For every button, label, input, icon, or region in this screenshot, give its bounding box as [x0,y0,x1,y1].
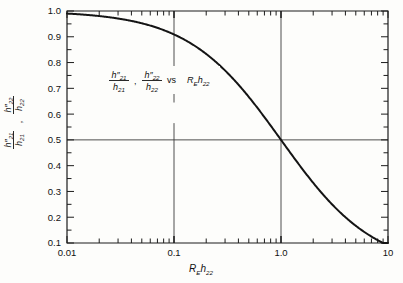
anno-vs: vs [167,75,177,85]
anno-comma: , [134,76,137,86]
y-tick-label: 1.0 [48,5,61,16]
anno-num1-sub: 21 [119,74,127,81]
y-axis-title: h″22 h22 , h″21 h21 [3,96,25,149]
data-curve-group [67,14,388,243]
y-title-frac2: h″22 h22 [3,96,25,114]
y-title-den1: h21 [14,134,25,146]
x-tick-label: 0.01 [58,247,77,258]
x-tick-label: 10 [383,247,394,258]
y-den2-sub: 22 [18,98,25,106]
ticks-group [67,11,388,243]
y-title-den2: h22 [14,98,25,110]
x-title-R: R [189,263,196,274]
y-title-num2: h″22 [3,97,14,113]
chart-figure: 0.010.11.010 1.00.90.80.70.60.50.40.30.2… [0,0,403,283]
y-title-comma: , [14,121,24,124]
x-tick-labels: 0.010.11.010 [58,247,394,258]
axis-frame [67,11,388,243]
plot-annotation: h″21 h21 , h″22 h22 vs REh22 [104,66,220,94]
y-num2-sub: 22 [7,97,14,105]
x-tick-label: 1.0 [274,247,287,258]
x-axis-title-text: REh22 [189,263,213,276]
x-tick-label: 0.1 [167,247,180,258]
anno-den2-sub: 22 [150,86,158,93]
y-den1-sub: 21 [18,134,25,142]
y-num1-sub: 21 [7,132,14,140]
y-tick-label: 0.2 [48,212,61,223]
y-title-num1: h″21 [3,132,14,147]
anno-num2-sub: 22 [152,74,160,81]
x-title-22: 22 [205,269,213,276]
anno-rhs-22: 22 [202,80,210,87]
chart-svg: 0.010.11.010 1.00.90.80.70.60.50.40.30.2… [0,0,403,283]
y-tick-label: 0.8 [48,57,61,68]
plot-frame [67,11,388,243]
y-title-frac1: h″21 h21 [3,131,25,149]
y-tick-labels: 1.00.90.80.70.60.50.40.30.20.1 [48,5,61,248]
y-tick-label: 0.7 [48,83,61,94]
x-axis-title: REh22 [189,263,213,276]
y-tick-label: 0.5 [48,134,61,145]
y-tick-label: 0.1 [48,237,61,248]
y-tick-label: 0.6 [48,109,61,120]
y-tick-label: 0.9 [48,31,61,42]
anno-den1-sub: 21 [117,86,125,93]
data-curve [67,14,388,243]
y-tick-label: 0.3 [48,186,61,197]
y-tick-label: 0.4 [48,160,61,171]
gridlines-group [67,11,388,243]
